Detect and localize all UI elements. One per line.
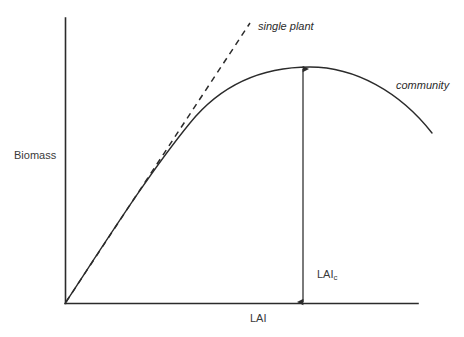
y-axis-label: Biomass	[14, 150, 56, 161]
series-label-community: community	[396, 80, 449, 91]
x-axis-label: LAI	[250, 313, 267, 324]
chart-figure: Biomass LAI single plant community LAIc	[0, 0, 464, 337]
lai-c-base-text: LAI	[317, 268, 334, 280]
community-curve	[66, 67, 432, 302]
lai-c-annotation-label: LAIc	[317, 269, 338, 280]
chart-canvas	[0, 0, 464, 337]
lai-c-subscript-text: c	[334, 273, 338, 282]
series-label-single-plant: single plant	[258, 21, 314, 32]
